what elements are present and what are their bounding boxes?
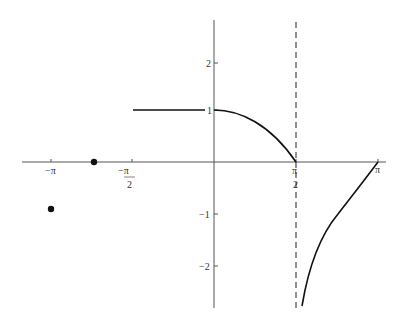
y-ticks <box>214 63 218 266</box>
y-tick-label-neg-1: −1 <box>199 209 210 220</box>
y-tick-label-1: 1 <box>207 105 212 116</box>
y-tick-label-neg-2: −2 <box>199 261 210 272</box>
y-tick-label-2: 2 <box>206 58 211 69</box>
function-graph: −π −π 2 π 2 π 2 1 −1 −2 <box>0 0 401 328</box>
cos-curve <box>214 110 296 162</box>
x-tick-label-neg-half-pi: −π <box>118 165 129 176</box>
point-neg-pi-neg-1 <box>48 206 54 212</box>
point-on-axis <box>91 159 97 165</box>
x-tick-label-neg-pi: −π <box>45 165 56 176</box>
x-tick-label-neg-half-pi-den: 2 <box>127 179 132 190</box>
tan-curve <box>302 162 378 306</box>
